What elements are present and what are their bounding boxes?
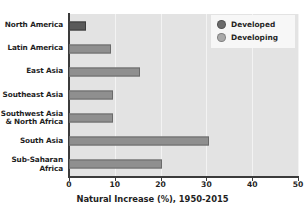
x-tick-label: 50 [293, 180, 304, 189]
bar [69, 21, 86, 30]
bar-row [69, 153, 298, 176]
bar [69, 137, 209, 146]
bar-row [69, 130, 298, 153]
y-axis-label: Southwest Asia & North Africa [1, 110, 63, 127]
bar [69, 114, 113, 123]
x-tick-label: 10 [110, 180, 121, 189]
y-axis-labels: North AmericaLatin AmericaEast AsiaSouth… [0, 14, 66, 176]
y-axis-label: North America [5, 21, 63, 30]
legend-swatch-developed-icon [217, 20, 226, 29]
x-axis-title: Natural Increase (%), 1950-2015 [0, 194, 305, 204]
bar [69, 44, 111, 53]
legend-label-developing: Developing [231, 33, 278, 42]
bar-row [69, 60, 298, 83]
legend-label-developed: Developed [231, 20, 275, 29]
legend: Developed Developing [211, 15, 295, 48]
x-tick-label: 20 [155, 180, 166, 189]
x-tick-label: 40 [247, 180, 258, 189]
x-tick-label: 30 [201, 180, 212, 189]
bar [69, 160, 162, 169]
bar-row [69, 83, 298, 106]
legend-item-developed: Developed [215, 18, 291, 31]
y-axis-label: South Asia [20, 137, 63, 146]
y-axis-label: Latin America [7, 44, 63, 53]
y-axis-label: Sub-Saharan Africa [0, 156, 63, 173]
y-axis-label: East Asia [26, 67, 63, 76]
bar [69, 67, 140, 76]
legend-swatch-developing-icon [217, 33, 226, 42]
x-tick-label: 0 [66, 180, 71, 189]
y-axis-label: Southeast Asia [3, 91, 63, 100]
bar [69, 90, 113, 99]
bar-row [69, 107, 298, 130]
legend-item-developing: Developing [215, 31, 291, 44]
x-axis-ticks: 01020304050 [0, 178, 305, 190]
bar-chart: North AmericaLatin AmericaEast AsiaSouth… [0, 0, 305, 212]
